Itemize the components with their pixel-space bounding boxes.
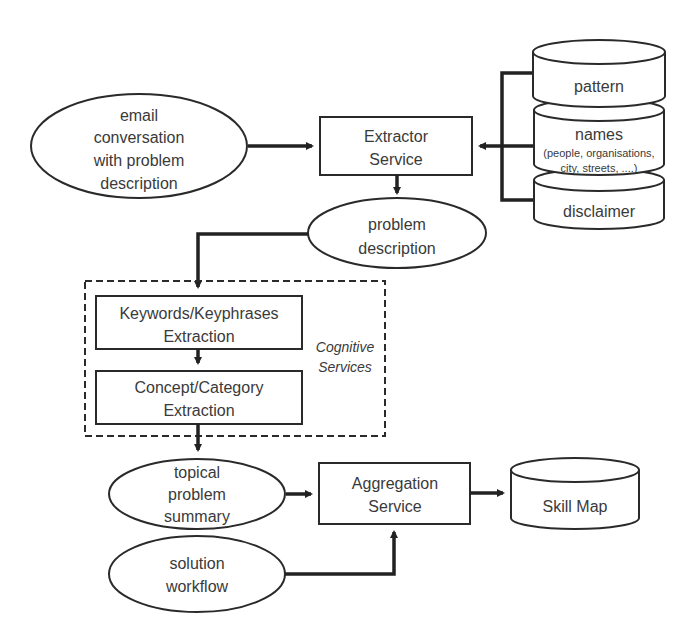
concept-line1: Concept/Category [135,379,264,396]
aggregation-line2: Service [368,498,421,515]
arrow-solution-to-aggregation [285,532,394,574]
cognitive-label-line1: Cognitive [316,339,375,355]
problem-line1: problem [368,216,426,233]
db-disclaimer: disclaimer [534,169,664,229]
keywords-line2: Extraction [163,328,234,345]
names-label: names [575,126,623,143]
node-problem-description: problem description [308,198,486,268]
node-concept-extraction: Concept/Category Extraction [96,371,302,424]
connector-db-stack [502,73,533,200]
db-pattern: pattern [533,40,665,107]
problem-line2: description [358,240,435,257]
solution-line1: solution [169,555,224,572]
names-sub2: city, streets, ....) [561,162,638,174]
email-line3: with problem [93,152,185,169]
skillmap-label: Skill Map [543,498,608,515]
email-line2: conversation [94,129,185,146]
email-line4: description [100,175,177,192]
topical-line2: problem [168,486,226,503]
topical-line3: summary [164,508,230,525]
concept-line2: Extraction [163,402,234,419]
db-names: names (people, organisations, city, stre… [534,99,664,175]
diagram-canvas: email conversation with problem descript… [0,0,693,644]
keywords-line1: Keywords/Keyphrases [119,305,278,322]
node-keywords-extraction: Keywords/Keyphrases Extraction [96,296,302,349]
extractor-line2: Service [369,151,422,168]
topical-line1: topical [174,464,220,481]
node-email-conversation: email conversation with problem descript… [31,94,247,198]
node-aggregation-service: Aggregation Service [319,463,470,524]
email-line1: email [120,107,158,124]
aggregation-line1: Aggregation [352,475,438,492]
disclaimer-label: disclaimer [563,203,636,220]
names-sub1: (people, organisations, [543,147,654,159]
db-skill-map: Skill Map [511,458,639,529]
node-solution-workflow: solution workflow [109,536,285,612]
pattern-label: pattern [574,78,624,95]
solution-line2: workflow [165,578,229,595]
node-extractor-service: Extractor Service [320,117,472,175]
node-topical-problem-summary: topical problem summary [109,459,285,529]
cognitive-label-line2: Services [318,359,372,375]
extractor-line1: Extractor [364,128,429,145]
arrow-problem-to-keywords [198,234,308,287]
